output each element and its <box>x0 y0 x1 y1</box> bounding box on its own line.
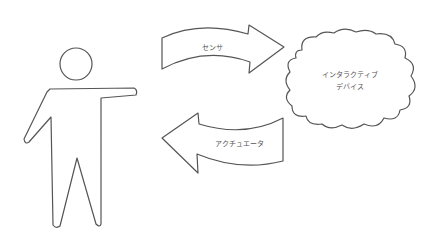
actuator-label: アクチュエータ <box>215 138 264 148</box>
device-label-line2: デバイス <box>336 81 364 91</box>
device-label-line1: インタラクティブ <box>322 69 378 79</box>
person-head <box>60 48 92 80</box>
sensor-label: センサ <box>202 42 223 52</box>
diagram-canvas <box>0 0 440 243</box>
person-figure <box>24 48 137 227</box>
sensor-arrow <box>162 25 284 73</box>
person-body <box>24 88 137 227</box>
